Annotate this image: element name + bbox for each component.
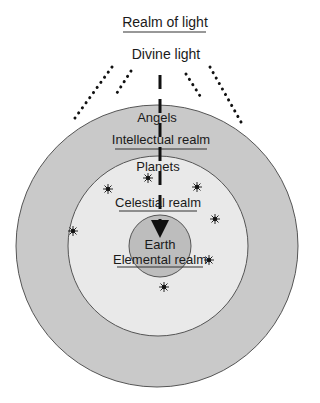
star-icon <box>192 182 202 192</box>
angels-label: Angels <box>137 111 177 124</box>
earth-label: Earth <box>144 238 175 251</box>
star-icon <box>68 226 78 236</box>
celestial-realm-label: Celestial realm <box>115 196 201 209</box>
light-ray-right-outer <box>210 67 241 122</box>
star-icon <box>103 184 113 194</box>
light-ray-left-outer <box>75 67 112 118</box>
planets-label: Planets <box>136 160 179 173</box>
diagram-title: Realm of light <box>122 15 208 29</box>
star-icon <box>159 282 169 292</box>
intellectual-realm-label: Intellectual realm <box>112 133 210 146</box>
divine-light-label: Divine light <box>132 47 200 61</box>
light-ray-right-inner <box>186 74 202 99</box>
star-icon <box>143 173 153 183</box>
light-ray-left-inner <box>115 71 131 96</box>
elemental-realm-label: Elemental realm <box>113 253 207 266</box>
star-icon <box>210 214 220 224</box>
